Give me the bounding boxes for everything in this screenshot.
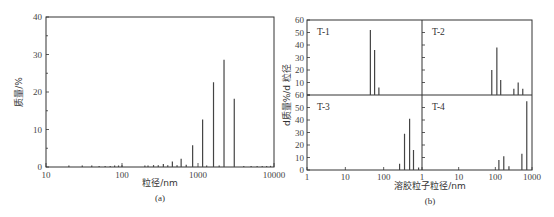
chart-b-y-axis-label: d质量%/d 粒径 — [281, 64, 292, 126]
chart-a-x-tick-label: 100 — [115, 170, 129, 180]
chart-b-panel-label: T-4 — [432, 102, 445, 112]
chart-b-x-tick-label: 100 — [377, 172, 391, 182]
chart-b-y-tick-label: 10 — [295, 78, 305, 88]
chart-b-y-tick-label: 60 — [295, 15, 305, 25]
chart-b-panel-label: T-3 — [317, 102, 330, 112]
chart-b-y-tick-label: 60 — [295, 90, 305, 100]
chart-a-y-tick-label: 30 — [33, 50, 43, 60]
chart-b-panel-label: T-2 — [432, 27, 445, 37]
chart-b-x-tick-label: 100 — [489, 172, 503, 182]
figure: 010203040 10100100010000 质量/% 粒径/nm (a) … — [0, 0, 554, 217]
chart-a-caption: (a) — [155, 193, 165, 203]
chart-b-y-tick-label: 20 — [295, 65, 305, 75]
chart-a: 010203040 10100100010000 质量/% 粒径/nm (a) — [13, 12, 286, 203]
chart-b-y-tick-label: 10 — [295, 153, 305, 163]
chart-b-y-tick-label: 50 — [295, 28, 305, 38]
chart-a-frame — [46, 17, 274, 167]
chart-b-y-tick-label: 30 — [295, 53, 305, 63]
chart-b-x-tick-label: 1000 — [523, 172, 542, 182]
chart-b-y-tick-label: 40 — [295, 115, 305, 125]
chart-a-y-tick-label: 10 — [33, 125, 43, 135]
chart-b-y-tick-label: 30 — [295, 128, 305, 138]
chart-b-x-tick-label: 1 — [305, 172, 310, 182]
chart-b: 6050403020106050403020100 11010011010010… — [281, 15, 542, 206]
chart-a-x-axis-label: 粒径/nm — [142, 177, 178, 188]
chart-b-y-tick-label: 20 — [295, 140, 305, 150]
chart-a-y-tick-label: 20 — [33, 87, 43, 97]
chart-b-caption: (b) — [425, 196, 436, 206]
chart-a-x-tick-label: 10 — [42, 170, 52, 180]
chart-b-y-tick-label: 40 — [295, 40, 305, 50]
chart-b-y-tick-label: 0 — [300, 165, 305, 175]
chart-a-x-tick-label: 1000 — [189, 170, 208, 180]
chart-a-y-axis-label: 质量/% — [13, 77, 24, 107]
chart-a-y-tick-label: 40 — [33, 12, 43, 22]
chart-b-y-tick-label: 50 — [295, 103, 305, 113]
chart-b-panel-label: T-1 — [317, 27, 330, 37]
chart-b-x-tick-label: 10 — [341, 172, 351, 182]
chart-b-x-axis-label: 溶胶粒子粒径/nm — [394, 180, 466, 191]
chart-a-x-tick-label: 10000 — [263, 170, 286, 180]
